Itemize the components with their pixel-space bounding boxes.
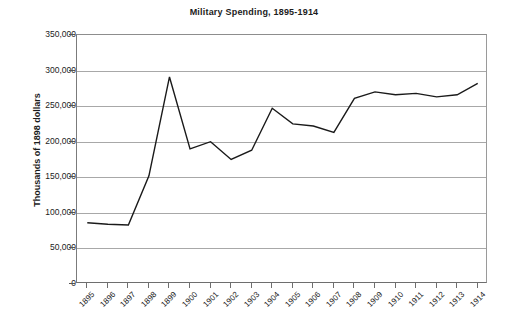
x-tick-label: 1912 xyxy=(421,290,446,315)
x-tick-mark xyxy=(415,283,416,288)
x-tick-mark xyxy=(251,283,252,288)
x-tick-label: 1897 xyxy=(113,290,138,315)
plot-area xyxy=(76,34,487,283)
x-tick-label: 1910 xyxy=(380,290,405,315)
x-tick-mark xyxy=(292,283,293,288)
x-tick-label: 1914 xyxy=(462,290,487,315)
y-tick-mark xyxy=(69,176,75,177)
x-tick-mark xyxy=(168,283,169,288)
x-tick-label: 1895 xyxy=(72,290,97,315)
x-tick-label: 1908 xyxy=(339,290,364,315)
x-tick-label: 1907 xyxy=(318,290,343,315)
y-tick-label: 50,000 xyxy=(10,242,76,252)
x-tick-mark xyxy=(353,283,354,288)
chart-container: Military Spending, 1895-1914 Thousands o… xyxy=(0,0,508,315)
x-tick-label: 1913 xyxy=(442,290,467,315)
y-tick-mark xyxy=(69,283,75,284)
y-tick-mark xyxy=(69,105,75,106)
x-tick-mark xyxy=(107,283,108,288)
y-tick-mark xyxy=(69,141,75,142)
x-tick-mark xyxy=(436,283,437,288)
chart-title: Military Spending, 1895-1914 xyxy=(0,7,508,17)
x-tick-mark xyxy=(127,283,128,288)
x-tick-mark xyxy=(395,283,396,288)
x-tick-label: 1898 xyxy=(134,290,159,315)
x-tick-mark xyxy=(210,283,211,288)
x-tick-label: 1900 xyxy=(175,290,200,315)
x-tick-mark xyxy=(456,283,457,288)
x-tick-label: 1909 xyxy=(360,290,385,315)
y-tick-label: 100,000 xyxy=(10,207,76,217)
x-tick-mark xyxy=(477,283,478,288)
series-polyline xyxy=(87,77,477,225)
x-tick-mark xyxy=(148,283,149,288)
y-tick-label: 0 xyxy=(10,278,76,288)
x-tick-label: 1911 xyxy=(401,290,426,315)
y-tick-label: 150,000 xyxy=(10,171,76,181)
y-tick-label: 350,000 xyxy=(10,29,76,39)
y-tick-label: 300,000 xyxy=(10,65,76,75)
y-tick-mark xyxy=(69,34,75,35)
x-tick-label: 1906 xyxy=(298,290,323,315)
data-series-line xyxy=(77,35,488,284)
x-tick-mark xyxy=(189,283,190,288)
x-tick-mark xyxy=(271,283,272,288)
x-tick-label: 1896 xyxy=(92,290,117,315)
x-tick-mark xyxy=(86,283,87,288)
y-tick-label: 250,000 xyxy=(10,100,76,110)
x-axis: 1895189618971898189919001901190219031904… xyxy=(76,283,487,315)
x-tick-label: 1903 xyxy=(236,290,261,315)
y-tick-mark xyxy=(69,70,75,71)
x-tick-mark xyxy=(374,283,375,288)
y-axis: 050,000100,000150,000200,000250,000300,0… xyxy=(0,0,76,315)
x-tick-label: 1902 xyxy=(216,290,241,315)
y-tick-mark xyxy=(69,247,75,248)
x-tick-mark xyxy=(312,283,313,288)
x-tick-label: 1904 xyxy=(257,290,282,315)
x-tick-label: 1905 xyxy=(277,290,302,315)
x-tick-label: 1901 xyxy=(195,290,220,315)
x-tick-mark xyxy=(333,283,334,288)
y-tick-mark xyxy=(69,212,75,213)
x-tick-label: 1899 xyxy=(154,290,179,315)
x-tick-mark xyxy=(230,283,231,288)
y-tick-label: 200,000 xyxy=(10,136,76,146)
